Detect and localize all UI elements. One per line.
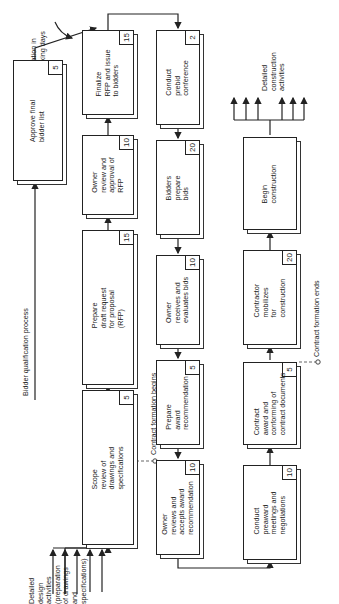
activity-label: Contractor mobilizes for construction: [253, 278, 287, 317]
duration-badge: 10: [282, 466, 296, 480]
activity-approve-bidder-list: 5 Approve final bidder list: [13, 60, 63, 181]
activity-bidders-prepare-bids: 20 Bidders prepare bids: [156, 140, 200, 235]
activity-preaward-meetings: 10 Conduct preaward meetings and negotia…: [243, 465, 297, 560]
activity-label: Prepare award recommendation: [165, 376, 191, 430]
activity-label: Owner receives and evaluates bids: [165, 277, 191, 323]
activity-finalize-rfp: 15 Finalize RFP and issue to bidders: [82, 30, 134, 115]
activity-begin-construction: Begin construction: [243, 137, 297, 230]
duration-badge: 10: [185, 461, 199, 475]
activity-contract-award: 5 Contract award and conforming of contr…: [243, 362, 297, 445]
activity-scope-review: 5 Scope review of drawings and specifica…: [82, 390, 134, 545]
duration-badge: 5: [185, 361, 199, 375]
activity-label: Conduct prebid conference: [165, 60, 191, 96]
activity-label: Prepare draft request for proposal (RFP): [91, 287, 125, 327]
contract-formation-ends-label: Contract formation ends: [313, 280, 322, 357]
activity-label: Scope review of drawings and specificati…: [91, 446, 125, 489]
activity-label: Owner reviews and accepts award recommen…: [161, 481, 195, 535]
activity-contractor-mobilizes: 20 Contractor mobilizes for construction: [243, 250, 297, 345]
activity-label: Conduct preaward meetings and negotiatio…: [253, 491, 287, 534]
activity-label: Bidders prepare bids: [165, 175, 191, 200]
bidder-qualification-label: Bidder qualification process: [22, 308, 31, 396]
activity-label: Owner review and approval of RFP: [91, 157, 125, 193]
activity-prepare-award-recommendation: 5 Prepare award recommendation: [156, 360, 200, 445]
duration-badge: 15: [119, 231, 133, 245]
detailed-construction-label: Detailed construction activities: [261, 52, 287, 91]
activity-label: Contract award and conforming of contrac…: [253, 372, 287, 435]
duration-badge: 15: [119, 31, 133, 45]
activity-accept-award-recommendation: 10 Owner reviews and accepts award recom…: [156, 460, 200, 555]
duration-badge: 20: [282, 251, 296, 265]
activity-owner-review-rfp: 10 Owner review and approval of RFP: [82, 135, 134, 215]
activity-prepare-draft-rfp: 15 Prepare draft request for proposal (R…: [82, 230, 134, 385]
duration-badge: 10: [185, 256, 199, 270]
detailed-design-label: Detailed design activities (preparation …: [28, 558, 88, 604]
duration-badge: 2: [185, 31, 199, 45]
activity-evaluate-bids: 10 Owner receives and evaluates bids: [156, 255, 200, 345]
activity-label: Finalize RFP and issue to bidders: [95, 49, 121, 96]
activity-label: Approve final bidder list: [29, 100, 46, 142]
duration-badge: 20: [185, 141, 199, 155]
activity-label: Begin construction: [261, 164, 278, 203]
activity-prebid-conference: 2 Conduct prebid conference: [156, 30, 200, 125]
duration-badge: 5: [119, 391, 133, 405]
duration-badge: 5: [48, 61, 62, 75]
duration-badge: 10: [119, 136, 133, 150]
